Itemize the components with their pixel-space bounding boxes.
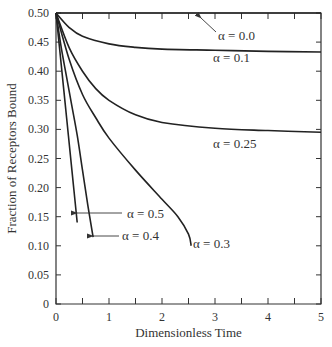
x-axis-title: Dimensionless Time [135,325,242,340]
x-tick-label: 0 [53,310,59,324]
y-tick-label: 0.30 [28,122,49,136]
labels: 00.050.100.150.200.250.300.350.400.450.5… [4,6,324,340]
y-tick-label: 0.10 [28,239,49,253]
x-tick-label: 2 [159,310,165,324]
alpha-label: α = 0.25 [213,136,256,151]
y-tick-label: 0.50 [28,6,49,20]
y-axis-title: Fraction of Receptors Bound [4,83,19,234]
axes [56,13,321,304]
y-tick-label: 0.35 [28,93,49,107]
y-tick-label: 0.20 [28,181,49,195]
alpha-label: α = 0.3 [193,236,230,251]
plot-frame [56,13,321,304]
x-tick-label: 1 [106,310,112,324]
y-tick-label: 0.45 [28,35,49,49]
y-tick-label: 0.25 [28,152,49,166]
alpha-label: α = 0.0 [218,28,255,43]
y-tick-label: 0.15 [28,210,49,224]
curves [56,13,321,246]
y-tick-label: 0.40 [28,64,49,78]
x-tick-label: 5 [318,310,324,324]
x-tick-label: 3 [212,310,218,324]
series-curve-2 [56,13,321,132]
y-tick-label: 0.05 [28,268,49,282]
alpha-label: α = 0.4 [122,228,159,243]
x-tick-label: 4 [265,310,271,324]
alpha-label: α = 0.1 [213,50,250,65]
y-tick-label: 0 [43,297,49,311]
alpha-0-arrow [201,18,216,32]
chart: 00.050.100.150.200.250.300.350.400.450.5… [0,0,332,347]
alpha-label: α = 0.5 [127,206,164,221]
